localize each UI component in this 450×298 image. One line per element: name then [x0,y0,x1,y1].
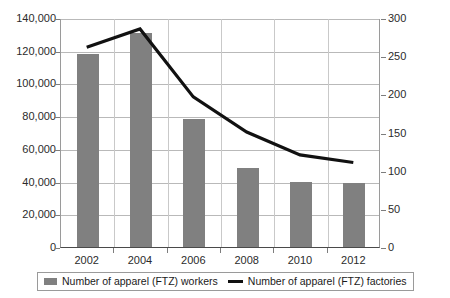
category-separator [114,19,115,247]
gridline [61,150,379,151]
left-axis-tick-label: 20,000 [0,209,56,220]
category-axis-label: 2010 [270,254,330,266]
gridline [61,84,379,85]
category-axis-tick-mark [220,248,221,253]
right-axis-tick-label: 50 [388,204,438,215]
bar [290,182,312,247]
plot-area [60,19,380,248]
bar [237,168,259,247]
right-axis-tick-mark [381,172,386,173]
legend-item-factories: Number of apparel (FTZ) factories [228,276,407,287]
category-separator [274,19,275,247]
legend-item-label: Number of apparel (FTZ) factories [248,276,407,287]
category-axis-label: 2012 [323,254,383,266]
bar [183,119,205,247]
legend-item-workers: Number of apparel (FTZ) workers [44,276,218,287]
chart-legend: Number of apparel (FTZ) workers Number o… [37,272,414,291]
left-axis-tick-mark [55,248,60,249]
category-separator [328,19,329,247]
bar [343,183,365,247]
left-axis-tick-label: 140,000 [0,13,56,24]
gridline [61,52,379,53]
bar [130,33,152,247]
chart-container: 020,00040,00060,00080,000100,000120,0001… [0,0,450,298]
gridline [61,183,379,184]
category-axis-label: 2008 [217,254,277,266]
bar [77,54,99,247]
right-axis-tick-label: 150 [388,128,438,139]
gridline [61,215,379,216]
right-axis-tick-label: 100 [388,166,438,177]
category-axis-label: 2004 [110,254,170,266]
category-axis-tick-mark [273,248,274,253]
right-axis-tick-label: 0 [388,242,438,253]
right-axis-tick-mark [381,19,386,20]
category-axis-tick-mark [327,248,328,253]
line-swatch-icon [228,280,243,283]
left-axis-tick-label: 100,000 [0,78,56,89]
left-axis-tick-label: 40,000 [0,177,56,188]
right-axis-tick-label: 200 [388,89,438,100]
left-axis-tick-label: 0 [0,242,56,253]
right-axis-tick-label: 300 [388,13,438,24]
category-axis-label: 2002 [57,254,117,266]
category-axis-tick-mark [167,248,168,253]
legend-item-label: Number of apparel (FTZ) workers [62,276,218,287]
category-axis-label: 2006 [163,254,223,266]
right-axis-tick-mark [381,210,386,211]
right-axis-tick-label: 250 [388,51,438,62]
left-axis-tick-label: 80,000 [0,111,56,122]
category-separator [168,19,169,247]
right-axis-tick-mark [381,57,386,58]
bar-swatch-icon [44,278,57,285]
gridline [61,19,379,20]
right-axis-tick-mark [381,95,386,96]
right-axis-tick-mark [381,134,386,135]
category-axis-tick-mark [113,248,114,253]
right-axis-tick-mark [381,248,386,249]
left-axis-tick-label: 60,000 [0,144,56,155]
gridline [61,117,379,118]
category-separator [221,19,222,247]
left-axis-tick-label: 120,000 [0,46,56,57]
